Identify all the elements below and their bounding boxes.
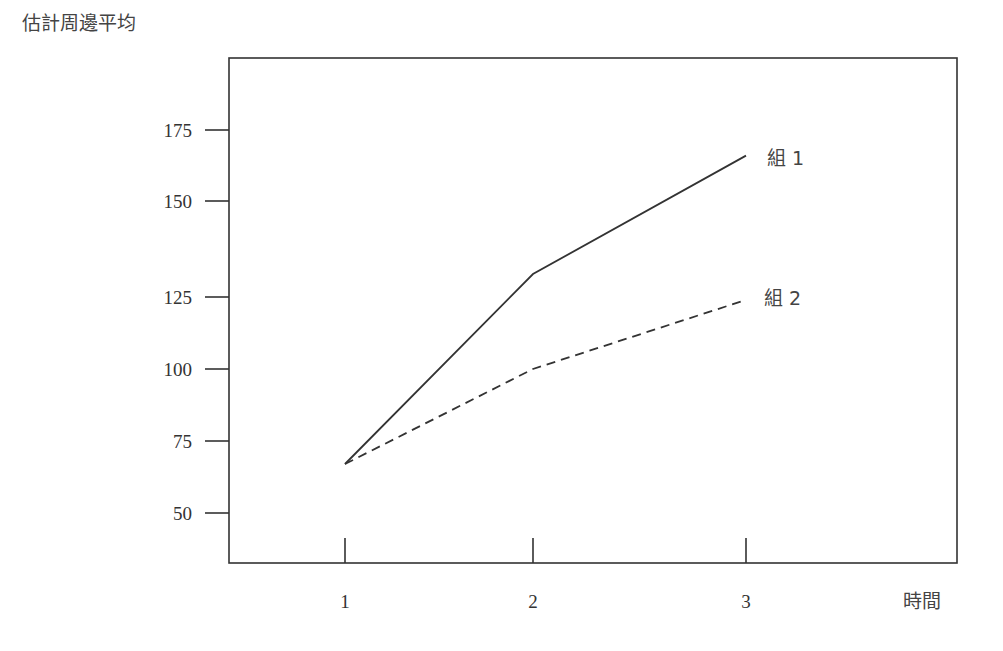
y-tick-label: 50 bbox=[173, 503, 192, 524]
series-line-2 bbox=[345, 300, 746, 464]
series-labels: 組 1組 2 bbox=[764, 147, 804, 309]
y-tick-label: 100 bbox=[164, 359, 193, 380]
series-label-2: 組 2 bbox=[764, 287, 801, 309]
series-label-1: 組 1 bbox=[767, 147, 804, 169]
line-chart: 估計周邊平均 5075100125150175 123 組 1組 2 時間 bbox=[0, 0, 1003, 651]
x-tick-label: 2 bbox=[528, 591, 538, 612]
x-tick-label: 3 bbox=[741, 591, 751, 612]
x-tick-label: 1 bbox=[340, 591, 350, 612]
plot-frame bbox=[229, 58, 957, 563]
y-tick-label: 75 bbox=[173, 431, 192, 452]
series-lines bbox=[345, 156, 746, 464]
series-line-1 bbox=[345, 156, 746, 464]
x-axis-title: 時間 bbox=[903, 590, 941, 612]
y-axis-title: 估計周邊平均 bbox=[22, 12, 136, 34]
x-axis-ticks: 123 bbox=[340, 538, 751, 612]
y-tick-label: 175 bbox=[164, 120, 193, 141]
y-tick-label: 125 bbox=[164, 287, 193, 308]
y-axis-ticks: 5075100125150175 bbox=[164, 120, 230, 524]
y-tick-label: 150 bbox=[164, 191, 193, 212]
